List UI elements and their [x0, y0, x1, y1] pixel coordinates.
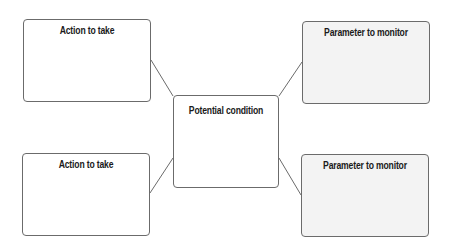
connector-bottom-left — [150, 158, 173, 193]
action-box-title: Action to take — [34, 158, 137, 170]
action-box-bottom-left[interactable]: Action to take — [22, 153, 150, 236]
parameter-box-title: Parameter to monitor — [314, 26, 417, 38]
parameter-box-title: Parameter to monitor — [313, 159, 416, 171]
condition-box-center[interactable]: Potential condition — [173, 95, 279, 188]
condition-box-title: Potential condition — [183, 104, 268, 116]
parameter-box-bottom-right[interactable]: Parameter to monitor — [301, 154, 429, 237]
connector-bottom-right — [279, 158, 301, 195]
action-box-title: Action to take — [35, 24, 138, 36]
connector-top-right — [279, 62, 302, 96]
connector-top-left — [151, 60, 173, 96]
parameter-box-top-right[interactable]: Parameter to monitor — [302, 21, 430, 104]
action-box-top-left[interactable]: Action to take — [23, 19, 151, 102]
